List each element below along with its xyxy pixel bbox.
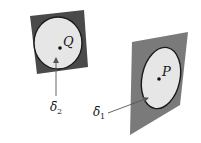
diagram-canvas: Q δ̄ 2 P δ̄ 1 <box>0 0 201 143</box>
left-disc <box>34 17 82 69</box>
point-q-label: Q <box>63 34 74 49</box>
right-panel: P δ̄ 1 <box>93 32 188 135</box>
point-p-label: P <box>161 64 171 79</box>
left-panel: Q δ̄ 2 <box>30 10 88 116</box>
point-q-dot <box>58 46 62 50</box>
point-p-dot <box>157 77 161 81</box>
delta1-subscript: 1 <box>100 112 105 121</box>
delta2-subscript: 2 <box>57 107 62 116</box>
